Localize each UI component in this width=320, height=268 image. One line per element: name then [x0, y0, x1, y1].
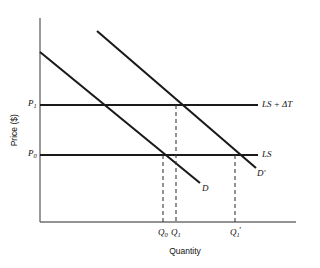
- y-tick-p1-base: P: [28, 98, 34, 108]
- x-tick-q1-base: Q: [171, 227, 178, 237]
- economics-figure: Price ($) Quantity P1 P0 Q0 Q1 Q1′ LS + …: [0, 0, 320, 268]
- x-tick-q1prime-base: Q: [230, 227, 237, 237]
- x-tick-label-q1-prime: Q1′: [230, 228, 242, 237]
- y-tick-p1-subscript: 1: [34, 102, 37, 109]
- y-tick-p0-subscript: 0: [34, 152, 37, 159]
- y-tick-p0-base: P: [28, 148, 34, 158]
- x-tick-label-q1: Q1: [171, 228, 181, 237]
- curve-label-ls-plus-tax: LS + ΔT: [262, 100, 292, 109]
- x-tick-label-q0: Q0: [158, 228, 168, 237]
- curve-label-ls: LS: [262, 150, 272, 159]
- x-tick-q1prime-mark: ′: [239, 225, 241, 235]
- x-axis-title: Quantity: [140, 247, 230, 256]
- curve-label-demand: D: [202, 184, 209, 193]
- x-tick-q0-subscript: 0: [165, 231, 168, 238]
- y-tick-label-p1: P1: [28, 99, 37, 108]
- x-tick-q0-base: Q: [158, 227, 165, 237]
- y-axis-title: Price ($): [10, 95, 19, 165]
- y-tick-label-p0: P0: [28, 149, 37, 158]
- x-tick-q1-subscript: 1: [178, 231, 181, 238]
- curve-label-demand-shifted: D′: [257, 169, 265, 178]
